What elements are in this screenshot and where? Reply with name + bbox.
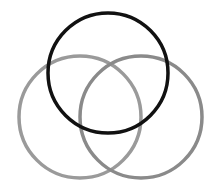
background — [0, 0, 218, 193]
venn-diagram — [0, 0, 218, 193]
